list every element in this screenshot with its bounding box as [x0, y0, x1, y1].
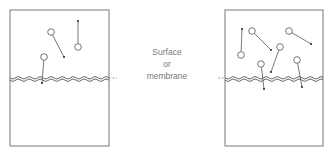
molecule	[270, 44, 283, 73]
molecule	[258, 61, 265, 90]
molecule	[294, 57, 303, 88]
molecule-tail	[292, 33, 311, 44]
membrane-wave-bottom	[225, 79, 323, 81]
molecule-head-icon	[286, 28, 293, 35]
molecule-head-icon	[249, 28, 256, 35]
molecule-end-dot	[301, 86, 303, 88]
molecule-end-dot	[63, 56, 65, 58]
molecule-end-dot	[77, 20, 79, 22]
molecule-head-icon	[238, 52, 245, 59]
molecule-head-icon	[41, 54, 48, 61]
membrane-wave-top	[10, 77, 109, 79]
molecule-end-dot	[270, 49, 272, 51]
molecule-tail	[254, 33, 271, 50]
molecule-tail	[42, 60, 44, 83]
molecule	[75, 20, 82, 50]
label-line-membrane: membrane	[145, 70, 190, 82]
molecule-tail	[241, 29, 242, 52]
molecule-end-dot	[310, 43, 312, 45]
molecule-head-icon	[75, 44, 82, 51]
membrane-wave-top	[225, 77, 323, 79]
molecule-tail	[298, 63, 302, 87]
molecule-head-icon	[258, 61, 265, 68]
left-panel	[10, 10, 109, 146]
molecule-end-dot	[241, 28, 243, 30]
right-panel	[225, 10, 323, 146]
surface-membrane-label: Surface or membrane	[117, 46, 217, 82]
molecule-tail	[271, 50, 279, 72]
label-line-surface: Surface	[117, 46, 217, 58]
molecule-end-dot	[270, 71, 272, 73]
label-line-or: or	[117, 58, 217, 70]
molecule-tail	[53, 35, 64, 57]
molecule-head-icon	[294, 57, 301, 64]
molecule-head-icon	[48, 29, 55, 36]
molecule	[249, 28, 272, 51]
molecule-head-icon	[277, 44, 284, 51]
molecule	[286, 28, 312, 45]
membrane-wave-bottom	[10, 79, 109, 81]
molecule	[48, 29, 65, 58]
molecule-end-dot	[41, 82, 43, 84]
molecule	[238, 28, 245, 58]
molecule-end-dot	[263, 88, 265, 90]
